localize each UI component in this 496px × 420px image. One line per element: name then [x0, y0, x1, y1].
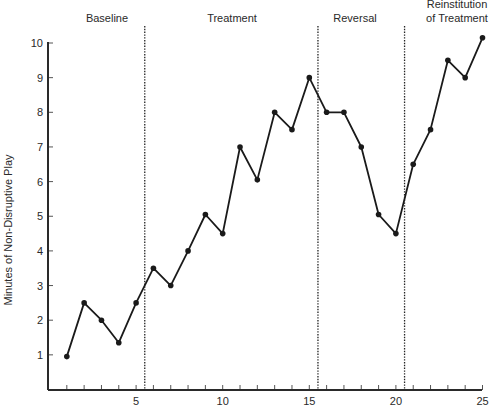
data-point [99, 317, 105, 323]
data-point [168, 283, 174, 289]
data-point [410, 161, 416, 167]
y-tick-label: 1 [37, 349, 43, 361]
data-point [358, 144, 364, 150]
data-point [185, 248, 191, 254]
data-point [255, 177, 261, 183]
chart-canvas: BaselineTreatmentReversalReinstitutionof… [0, 0, 496, 420]
data-line [67, 38, 483, 357]
phase-label: Reinstitution [427, 0, 488, 10]
phase-labels: BaselineTreatmentReversalReinstitutionof… [86, 0, 488, 24]
data-point [307, 75, 313, 81]
x-tick-label: 25 [476, 395, 488, 407]
y-tick-label: 4 [37, 245, 43, 257]
data-point [133, 300, 139, 306]
x-axis-ticks: 510152025 [67, 385, 489, 407]
y-tick-label: 2 [37, 314, 43, 326]
data-point [237, 144, 243, 150]
x-tick-label: 15 [303, 395, 315, 407]
y-tick-label: 7 [37, 141, 43, 153]
data-point [462, 75, 468, 81]
y-tick-label: 9 [37, 72, 43, 84]
y-tick-label: 8 [37, 106, 43, 118]
axes [48, 42, 482, 390]
data-point [480, 35, 486, 41]
phase-label: Treatment [207, 12, 257, 24]
data-point [64, 354, 70, 360]
y-tick-label: 10 [31, 37, 43, 49]
data-point [376, 212, 382, 218]
data-point [220, 231, 226, 237]
data-point [151, 265, 157, 271]
data-point [341, 110, 347, 116]
y-axis-ticks: 12345678910 [31, 37, 53, 361]
x-tick-label: 5 [133, 395, 139, 407]
single-subject-design-chart: BaselineTreatmentReversalReinstitutionof… [0, 0, 496, 420]
data-point [445, 58, 451, 64]
y-tick-label: 6 [37, 176, 43, 188]
phase-change-lines [145, 26, 405, 389]
phase-label: of Treatment [426, 12, 488, 24]
data-point [428, 127, 434, 133]
y-axis-label: Minutes of Non-Disruptive Play [2, 154, 14, 306]
x-tick-label: 10 [217, 395, 229, 407]
data-point [324, 110, 330, 116]
data-point [81, 300, 87, 306]
y-tick-label: 3 [37, 280, 43, 292]
phase-label: Reversal [333, 12, 376, 24]
data-point [289, 127, 295, 133]
y-tick-label: 5 [37, 210, 43, 222]
data-point [272, 110, 278, 116]
phase-label: Baseline [86, 12, 128, 24]
x-tick-label: 20 [390, 395, 402, 407]
data-point [203, 212, 209, 218]
data-point [393, 231, 399, 237]
data-point [116, 340, 122, 346]
data-series [64, 35, 485, 359]
